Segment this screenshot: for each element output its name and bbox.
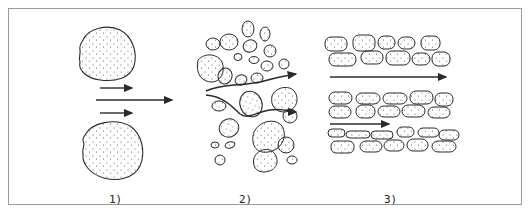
panel-label-2: 2) [239, 193, 252, 206]
panel-1-arrows [96, 88, 172, 113]
panel-1 [79, 27, 142, 179]
panel-label-3: 3) [384, 193, 397, 206]
grain-large-top [79, 27, 135, 80]
panel-3-grains [325, 35, 459, 153]
diagram-canvas [0, 0, 530, 217]
grain-large-bottom [83, 122, 143, 180]
panel-label-1: 1) [109, 193, 122, 206]
